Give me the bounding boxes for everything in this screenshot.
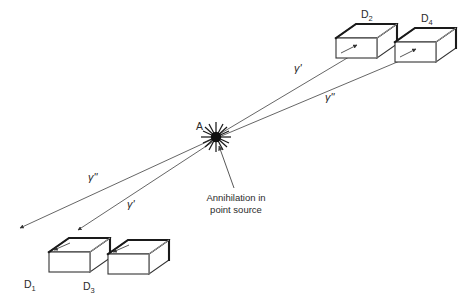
annihilation-caption-line1: Annihilation in xyxy=(206,192,265,203)
detector-d4-label: D4 xyxy=(421,12,433,27)
detector-d3-front-face xyxy=(108,254,149,274)
detector-d3-label: D3 xyxy=(83,280,95,295)
diagram-canvas: D2 D4 D1 xyxy=(0,0,466,301)
ray-label-to-d2: γ' xyxy=(294,62,303,74)
point-source-label: A xyxy=(196,120,203,132)
detector-d1[interactable] xyxy=(49,238,110,272)
starburst-icon xyxy=(201,122,231,152)
detector-d4[interactable] xyxy=(395,28,456,62)
detector-d2-label: D2 xyxy=(361,8,373,23)
ray-label-to-d4: γ" xyxy=(325,91,336,103)
starburst-core xyxy=(211,132,221,142)
annihilation-detector-diagram: D2 D4 D1 xyxy=(0,0,466,301)
ray-label-to-d3: γ' xyxy=(127,198,136,210)
ray-to-d2 xyxy=(218,48,364,135)
detector-d2-front-face xyxy=(336,38,377,58)
detector-d2[interactable] xyxy=(336,24,397,58)
ray-to-d3 xyxy=(78,141,214,230)
detector-d3[interactable] xyxy=(108,240,169,274)
annihilation-caption-line2: point source xyxy=(210,204,262,215)
detector-d4-front-face xyxy=(395,42,436,62)
ray-to-d1 xyxy=(20,139,213,228)
detector-d1-label: D1 xyxy=(24,278,36,293)
ray-group-lower-left xyxy=(20,139,214,230)
ray-label-to-d1: γ" xyxy=(88,171,99,183)
detector-d1-front-face xyxy=(49,252,90,272)
ray-to-d4 xyxy=(219,52,421,137)
ray-group-upper-right xyxy=(218,48,421,137)
caption-pointer-arrow xyxy=(219,146,234,188)
